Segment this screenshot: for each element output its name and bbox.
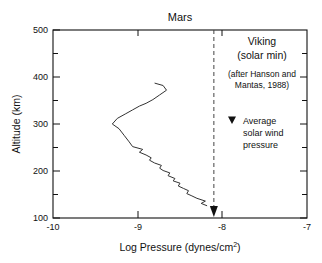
x-axis-title-tail: ) [237, 241, 241, 253]
x-tick-label-neg10: -10 [46, 222, 59, 232]
annotation-source-line1: (after Hanson and [228, 69, 296, 79]
y-tick-label-500: 500 [33, 25, 48, 35]
x-tick-label-neg9: -9 [134, 222, 142, 232]
y-tick-label-400: 400 [33, 72, 48, 82]
annotation-solar-wind: solar wind [243, 128, 284, 138]
y-tick-label-200: 200 [33, 166, 48, 176]
annotation-viking: Viking [248, 35, 277, 47]
x-tick-label-neg8: -8 [218, 222, 226, 232]
x-axis-title-main: Log Pressure (dynes/cm [119, 241, 233, 253]
annotation-pressure: pressure [243, 140, 278, 150]
page-title: Mars [168, 11, 193, 23]
x-axis-title: Log Pressure (dynes/cm2) [119, 241, 240, 253]
annotation-source-line2: Mantas, 1988) [235, 80, 290, 90]
annotation-solar-min: (solar min) [237, 49, 287, 61]
y-tick-label-300: 300 [33, 119, 48, 129]
figure-container: Mars [0, 0, 322, 263]
mars-pressure-profile-chart: Mars [0, 0, 322, 263]
y-axis-title: Altitude (km) [10, 95, 22, 154]
annotation-average: Average [243, 116, 276, 126]
x-tick-label-neg7: -7 [303, 222, 311, 232]
